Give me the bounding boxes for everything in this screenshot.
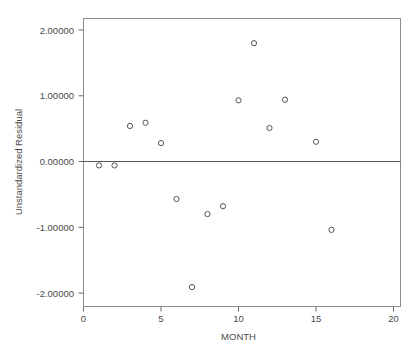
- y-tick-label-1: 1.00000: [40, 90, 74, 101]
- scatter-plot-figure: 2.00000 1.00000 0.00000 -1.00000 -2.0000…: [0, 0, 418, 349]
- x-tick-label-15: 15: [311, 313, 322, 324]
- x-tick-label-20: 20: [388, 313, 399, 324]
- y-axis-title: Unstandardized Residual: [13, 109, 24, 215]
- x-tick-label-0: 0: [81, 313, 86, 324]
- y-tick-label-0: 0.00000: [40, 156, 74, 167]
- x-tick-label-5: 5: [158, 313, 163, 324]
- y-tick-label-neg1: -1.00000: [36, 222, 74, 233]
- x-tick-label-10: 10: [233, 313, 244, 324]
- y-tick-label-neg2: -2.00000: [36, 288, 74, 299]
- chart-canvas: 2.00000 1.00000 0.00000 -1.00000 -2.0000…: [0, 0, 418, 349]
- x-axis-title: MONTH: [221, 331, 256, 342]
- y-tick-label-2: 2.00000: [40, 25, 74, 36]
